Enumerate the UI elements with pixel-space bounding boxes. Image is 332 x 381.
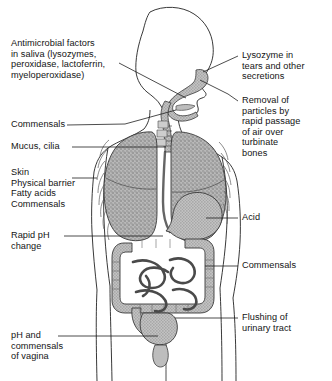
label-rapid-ph: Rapid pH change [11,230,81,251]
label-commensals-gut: Commensals [242,260,296,271]
spine [156,121,168,146]
label-mucus-cilia: Mucus, cilia [11,141,60,152]
label-acid: Acid [242,212,260,223]
label-saliva: Antimicrobial factors in saliva (lysozym… [11,38,137,80]
label-lysozyme: Lysozyme in tears and other secretions [242,50,328,82]
small-intestine [133,258,196,311]
leader-lysozyme [203,56,238,72]
label-turbinate: Removal of particles by rapid passage of… [242,95,322,159]
label-skin: Skin Physical barrier Fatty acids Commen… [11,167,103,209]
label-vagina: pH and commensals of vagina [11,330,91,362]
label-urinary: Flushing of urinary tract [242,312,326,333]
label-commensals-mouth: Commensals [11,119,65,130]
leader-turbinate [200,80,238,101]
bladder [140,313,177,367]
